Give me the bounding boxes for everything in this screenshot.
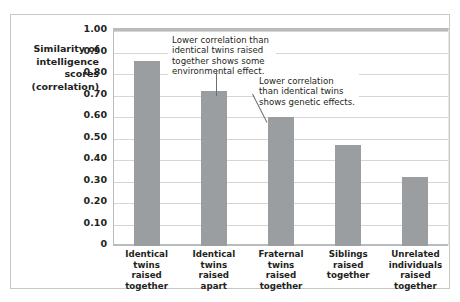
x-axis-category-label-line: raised — [247, 270, 314, 281]
annotation-1-line-2: identical twins raised — [172, 45, 263, 55]
x-axis-category-label-line: together — [382, 281, 449, 292]
x-axis-category-label: Siblingsraisedtogether — [315, 249, 382, 297]
bar-series — [114, 31, 448, 246]
x-axis-category-label: Identicaltwinsraisedapart — [180, 249, 247, 297]
x-axis-category-label: Identicaltwinsraisedtogether — [113, 249, 180, 297]
x-axis-category-label-line: Siblings — [315, 249, 382, 260]
x-axis-category-label-line: individuals — [382, 260, 449, 271]
y-axis-tick-label: 0.80 — [77, 66, 107, 77]
x-axis-category-label-line: together — [113, 281, 180, 292]
x-axis-category-label: Fraternaltwinsraisedtogether — [247, 249, 314, 297]
x-axis-category-label-line: twins — [180, 260, 247, 271]
y-axis-tick-label: 0 — [77, 238, 107, 249]
bar — [134, 61, 160, 246]
x-axis-category-label-line: raised — [180, 270, 247, 281]
x-axis-category-label-line: Unrelated — [382, 249, 449, 260]
plot-area — [113, 28, 449, 246]
annotation-environmental-effect: Lower correlation than identical twins r… — [168, 33, 276, 79]
x-axis-category-label-line: apart — [180, 281, 247, 292]
x-axis-category-label-line: raised — [382, 270, 449, 281]
bar — [335, 145, 361, 246]
y-axis-tick-label: 0.70 — [77, 87, 107, 98]
x-axis-category-label-line: raised — [113, 270, 180, 281]
chart-figure: Similarity of intelligence scores (corre… — [10, 14, 450, 289]
x-axis-category-label-line: raised — [315, 260, 382, 271]
y-axis-tick-label: 0.20 — [77, 195, 107, 206]
bar — [402, 177, 428, 246]
x-axis-category-label-line: Identical — [180, 249, 247, 260]
annotation-2-line-3: genetic effects. — [288, 97, 355, 107]
y-axis-tick-label: 0.60 — [77, 109, 107, 120]
x-axis-category-label-line: twins — [247, 260, 314, 271]
y-axis-tick-label: 1.00 — [77, 23, 107, 34]
annotation-1-line-3: together shows some — [172, 56, 265, 66]
x-axis-category-label: Unrelatedindividualsraisedtogether — [382, 249, 449, 297]
annotation-1-leader-line — [216, 70, 217, 96]
annotation-1-line-4: environmental effect. — [172, 66, 264, 76]
x-axis-category-label-line: together — [315, 270, 382, 281]
bar — [268, 117, 294, 246]
bar — [201, 91, 227, 246]
y-axis-tick-label: 0.40 — [77, 152, 107, 163]
x-axis-category-labels: IdenticaltwinsraisedtogetherIdenticaltwi… — [113, 249, 449, 297]
annotation-1-line-1: Lower correlation than — [172, 35, 269, 45]
x-axis-category-label-line: together — [247, 281, 314, 292]
y-axis-tick-label: 0.30 — [77, 173, 107, 184]
y-axis-tick-label: 0.50 — [77, 130, 107, 141]
annotation-genetic-effects: Lower correlation than identical twins s… — [255, 74, 359, 109]
x-axis-category-label-line: twins — [113, 260, 180, 271]
y-axis-tick-label: 0.90 — [77, 44, 107, 55]
x-axis-category-label-line: Identical — [113, 249, 180, 260]
x-axis-category-label-line: Fraternal — [247, 249, 314, 260]
y-axis-tick-label: 0.10 — [77, 216, 107, 227]
